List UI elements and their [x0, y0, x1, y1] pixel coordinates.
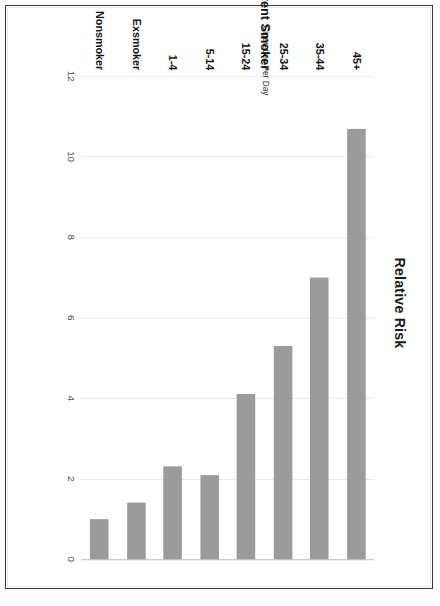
bar-row: 5-14: [200, 76, 218, 559]
group-label-current-smoker: Current Smoker: [259, 0, 274, 70]
category-label-45-: 45+: [347, 52, 365, 76]
category-label-1-4: 1-4: [164, 55, 182, 76]
category-label-15-24: 15-24: [237, 43, 255, 76]
gridline-4: [81, 398, 374, 399]
category-label-25-34: 25-34: [274, 43, 292, 76]
axis-tick-label: 8: [66, 234, 77, 239]
bar-1-4[interactable]: [164, 467, 182, 560]
bar-row: 45+: [347, 76, 365, 559]
gridline-2: [81, 479, 374, 480]
gridline-0: [81, 559, 374, 560]
bar-5-14[interactable]: [200, 475, 218, 560]
bar-row: 15-24: [237, 76, 255, 559]
axis-tick-label: 12: [66, 71, 77, 82]
bar-row: 25-34: [274, 76, 292, 559]
gridline-6: [81, 318, 374, 319]
bar-row: 1-4: [164, 76, 182, 559]
category-label-5-14: 5-14: [200, 49, 218, 76]
bar-35-44[interactable]: [310, 277, 328, 559]
bar-row: Exsmoker: [127, 76, 145, 559]
category-label-exsmoker: Exsmoker: [127, 19, 145, 76]
bar-nonsmoker[interactable]: [90, 519, 108, 559]
bar-row: Nonsmoker: [90, 76, 108, 559]
axis-tick-label: 6: [66, 315, 77, 320]
category-label-nonsmoker: Nonsmoker: [90, 11, 108, 76]
axis-tick-label: 0: [66, 557, 77, 562]
bar-chart: Relative Risk 024681012NonsmokerExsmoker…: [24, 29, 415, 577]
gridline-8: [81, 237, 374, 238]
bar-row: 35-44: [310, 76, 328, 559]
category-label-35-44: 35-44: [310, 43, 328, 76]
scanned-page: Relative Risk 024681012NonsmokerExsmoker…: [0, 0, 440, 606]
axis-tick-label: 2: [66, 476, 77, 481]
plot-area: 024681012NonsmokerExsmoker1-45-1415-2425…: [81, 76, 374, 559]
bar-15-24[interactable]: [237, 394, 255, 559]
gridline-12: [81, 76, 374, 77]
bar-45-[interactable]: [347, 128, 365, 559]
chart-title: Relative Risk: [392, 29, 408, 577]
chart-rotation-wrapper: Relative Risk 024681012NonsmokerExsmoker…: [0, 0, 440, 606]
gridline-10: [81, 157, 374, 158]
bar-exsmoker[interactable]: [127, 503, 145, 559]
axis-tick-label: 10: [66, 151, 77, 162]
axis-tick-label: 4: [66, 395, 77, 400]
bar-25-34[interactable]: [274, 346, 292, 559]
